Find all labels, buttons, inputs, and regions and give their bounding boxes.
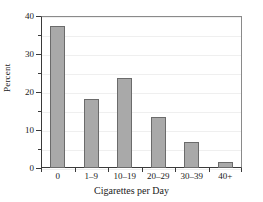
y-tick-label: 40	[25, 12, 34, 21]
bar	[184, 142, 199, 168]
x-axis-title: Cigarettes per Day	[0, 185, 263, 196]
bar-chart: 010203040 Percent 01–910–1920–2930–3940+…	[0, 0, 263, 202]
x-axis-labels: 01–910–1920–2930–3940+	[41, 172, 242, 186]
bar-series	[41, 16, 242, 168]
x-tick-label: 40+	[218, 172, 232, 181]
x-tick-label: 1–9	[85, 172, 99, 181]
bar	[84, 99, 99, 168]
y-tick-label: 10	[25, 126, 34, 135]
y-tick-label: 30	[25, 50, 34, 59]
x-tick-label: 10–19	[114, 172, 137, 181]
bar	[151, 117, 166, 168]
bar	[50, 26, 65, 169]
x-tick-label: 20–29	[147, 172, 170, 181]
x-tick-label: 0	[56, 172, 61, 181]
y-tick-label: 0	[30, 164, 35, 173]
y-axis-title: Percent	[2, 64, 12, 92]
bar	[117, 78, 132, 168]
y-tick-label: 20	[25, 88, 34, 97]
y-axis: 010203040	[0, 0, 41, 202]
x-tick-label: 30–39	[181, 172, 204, 181]
